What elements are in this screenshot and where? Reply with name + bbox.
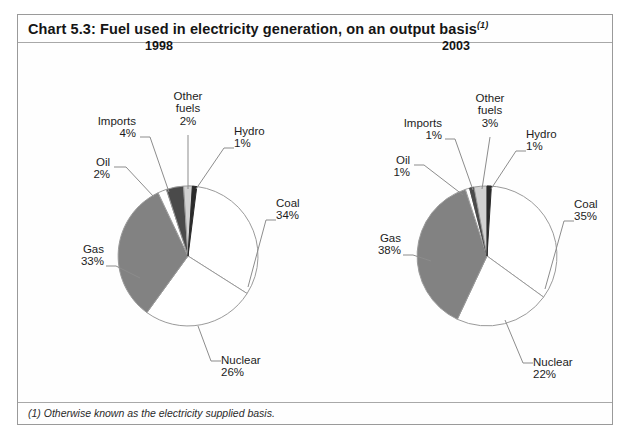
footnote-text: (1) Otherwise known as the electricity s… (28, 407, 275, 419)
pie-label-other-fuels-name-2003: Other (476, 92, 505, 104)
pie-label-oil-name-2003: Oil (396, 154, 410, 166)
pie-chart-2003 (314, 15, 612, 401)
pie-label-hydro-2003: Hydro 1% (526, 128, 602, 153)
leader-line-nuclear-2003 (505, 320, 533, 363)
pie-label-coal-name-1998: Coal (276, 197, 300, 209)
pie-label-imports-1998: Imports 4% (40, 115, 136, 140)
pie-label-oil-2003: Oil 1% (332, 154, 410, 179)
leader-line-oil-1998 (114, 167, 154, 197)
leader-line-hydro-2003 (491, 151, 526, 189)
pie-label-nuclear-pct-1998: 26% (221, 366, 301, 378)
leader-line-imports-2003 (445, 139, 473, 190)
pie-label-gas-name-2003: Gas (380, 232, 401, 244)
leader-line-oil-2003 (414, 165, 463, 195)
pie-label-hydro-pct-1998: 1% (234, 137, 310, 149)
leader-line-hydro-1998 (196, 148, 234, 189)
pie-label-other-fuels-name2-1998: fuels (152, 102, 224, 114)
pie-label-other-fuels-name-1998: Other (174, 90, 203, 102)
pie-label-other-fuels-name2-2003: fuels (454, 104, 526, 116)
leader-line-nuclear-1998 (198, 326, 221, 361)
pie-label-other-fuels-1998: Other fuels 2% (152, 90, 224, 127)
pie-label-oil-name-1998: Oil (96, 156, 110, 168)
pie-label-other-fuels-pct-2003: 3% (454, 117, 526, 129)
pie-panel-1998: 1998 Oil (18, 15, 316, 401)
chart-container: Chart 5.3: Fuel used in electricity gene… (17, 14, 613, 425)
pie-label-oil-1998: Oil 2% (32, 156, 110, 181)
pie-label-other-fuels-pct-1998: 2% (152, 115, 224, 127)
pie-label-nuclear-name-1998: Nuclear (221, 354, 261, 366)
pie-label-nuclear-pct-2003: 22% (533, 368, 613, 380)
pie-label-gas-pct-2003: 38% (331, 244, 401, 256)
pie-label-hydro-pct-2003: 1% (526, 140, 602, 152)
pie-label-hydro-name-2003: Hydro (526, 128, 557, 140)
pie-label-oil-pct-1998: 2% (32, 168, 110, 180)
pie-panel-2003: 2003 Oil (314, 15, 612, 401)
pie-chart-1998 (18, 15, 316, 401)
pie-label-imports-pct-1998: 4% (40, 127, 136, 139)
pie-label-hydro-1998: Hydro 1% (234, 125, 310, 150)
footnote-divider (18, 402, 612, 403)
pie-label-coal-2003: Coal 35% (574, 198, 629, 223)
pie-label-gas-1998: Gas 33% (34, 243, 104, 268)
pie-label-imports-2003: Imports 1% (346, 117, 442, 142)
leader-line-other-fuels-2003 (482, 137, 490, 189)
pie-label-imports-name-1998: Imports (98, 115, 136, 127)
pie-label-imports-pct-2003: 1% (346, 129, 442, 141)
pie-label-imports-name-2003: Imports (404, 117, 442, 129)
leader-line-imports-1998 (140, 137, 169, 192)
pie-label-nuclear-name-2003: Nuclear (533, 356, 573, 368)
pie-label-coal-pct-2003: 35% (574, 210, 629, 222)
pie-label-nuclear-1998: Nuclear 26% (221, 354, 301, 379)
pie-label-gas-2003: Gas 38% (331, 232, 401, 257)
pie-label-other-fuels-2003: Other fuels 3% (454, 92, 526, 129)
pie-label-hydro-name-1998: Hydro (234, 125, 265, 137)
pie-label-coal-name-2003: Coal (574, 198, 598, 210)
pie-label-nuclear-2003: Nuclear 22% (533, 356, 613, 381)
pie-label-gas-name-1998: Gas (83, 243, 104, 255)
pie-label-gas-pct-1998: 33% (34, 255, 104, 267)
pie-label-oil-pct-2003: 1% (332, 166, 410, 178)
